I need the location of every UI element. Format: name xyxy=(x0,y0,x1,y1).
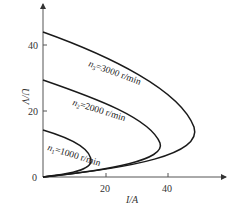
x-tick-label-20: 20 xyxy=(100,183,110,194)
tick-label-origin: 0 xyxy=(32,172,37,183)
x-axis-label: I/A xyxy=(125,194,139,205)
y-tick-label-20: 20 xyxy=(28,106,38,117)
y-tick-label-40: 40 xyxy=(28,40,38,51)
x-tick-label-40: 40 xyxy=(162,183,172,194)
y-axis-label: U/V xyxy=(20,88,31,106)
curve-label-n1: n1=1000 r/min xyxy=(46,142,102,169)
chart: 0 20 40 20 40 I/A U/V n1=1000 r/min n2=2… xyxy=(0,0,235,212)
